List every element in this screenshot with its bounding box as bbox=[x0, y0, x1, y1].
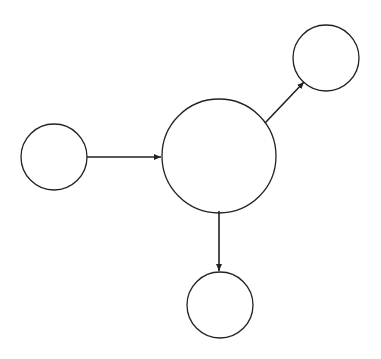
node-bottom bbox=[187, 272, 253, 338]
node-top-right bbox=[293, 25, 359, 91]
node-center bbox=[162, 99, 276, 213]
node-left bbox=[21, 124, 87, 190]
edge-center-to-top-right bbox=[265, 82, 304, 123]
diagram-canvas bbox=[0, 0, 381, 359]
